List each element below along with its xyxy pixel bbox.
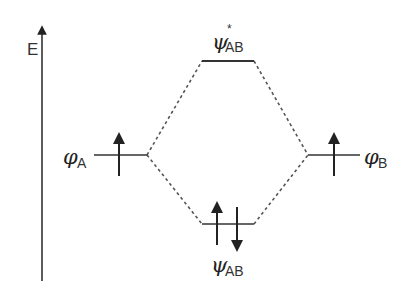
dashed-connectors xyxy=(147,61,308,224)
connector-a-bonding xyxy=(147,155,202,224)
antibonding-orbital: ψ * AB xyxy=(202,22,254,61)
atomic-a-subscript: A xyxy=(77,155,87,171)
antibonding-subscript: AB xyxy=(225,39,244,55)
antibonding-superscript: * xyxy=(227,22,232,36)
connector-b-antibonding xyxy=(254,61,308,155)
energy-axis: E xyxy=(27,30,42,281)
atomic-orbital-a: φ A xyxy=(63,138,147,176)
bonding-subscript: AB xyxy=(225,263,244,279)
connector-a-antibonding xyxy=(147,61,202,155)
energy-axis-label: E xyxy=(27,40,38,59)
mo-diagram: E ψ * AB φ A φ B ψ AB xyxy=(0,0,408,298)
atomic-b-symbol: φ xyxy=(364,145,379,169)
atomic-orbital-b: φ B xyxy=(308,138,387,176)
connector-b-bonding xyxy=(254,155,308,224)
bonding-orbital: ψ AB xyxy=(202,207,254,279)
atomic-a-symbol: φ xyxy=(63,145,78,169)
atomic-b-subscript: B xyxy=(378,155,387,171)
